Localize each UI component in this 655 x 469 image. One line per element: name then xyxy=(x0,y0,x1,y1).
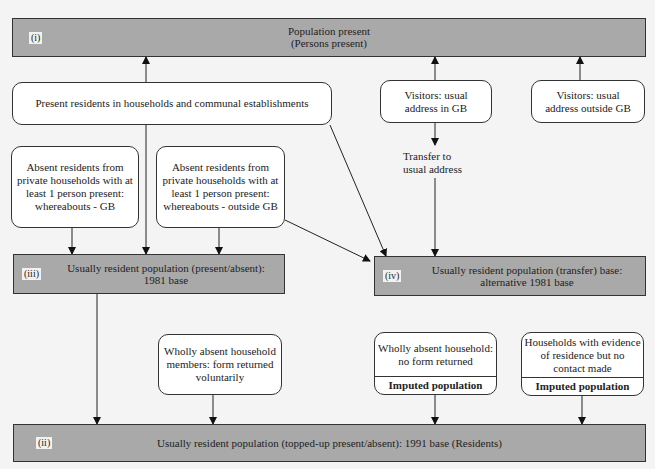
visitors-outside-gb-node: Visitors: usual address outside GB xyxy=(531,80,645,123)
box-title: Population present xyxy=(13,25,645,37)
connector-arrows xyxy=(0,0,655,469)
imputed-population-label: Imputed population xyxy=(522,377,643,395)
usually-resident-transfer-box: (iv) Usually resident population (transf… xyxy=(374,256,646,296)
wholly-absent-voluntary-node: Wholly absent household members: form re… xyxy=(158,334,282,395)
transfer-label: Transfer to usual address xyxy=(403,150,469,176)
box-subtitle: (Persons present) xyxy=(13,37,645,49)
population-present-box: (i) Population present (Persons present) xyxy=(12,18,646,57)
imputed-population-label: Imputed population xyxy=(375,376,496,394)
usually-resident-1981-box: (iii) Usually resident population (prese… xyxy=(13,254,285,294)
box-tag: (iv) xyxy=(383,270,401,282)
absent-residents-outside-gb-node: Absent residents from private households… xyxy=(156,146,285,228)
wholly-absent-no-form-node: Wholly absent household: no form returne… xyxy=(374,332,497,395)
visitors-gb-node: Visitors: usual address in GB xyxy=(380,80,492,123)
evidence-no-contact-node: Households with evidence of residence bu… xyxy=(521,332,644,396)
box-tag: (iii) xyxy=(22,268,41,280)
present-residents-node: Present residents in households and comm… xyxy=(12,82,332,125)
absent-residents-gb-node: Absent residents from private households… xyxy=(11,146,139,228)
usually-resident-1991-box: (ii) Usually resident population (topped… xyxy=(13,424,646,462)
